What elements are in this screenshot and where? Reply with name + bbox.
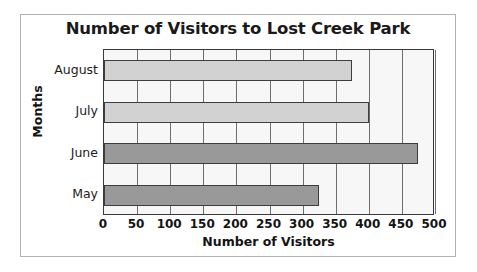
x-tick-150: 150 [190, 217, 215, 231]
plot-area [103, 49, 434, 215]
bar-july [104, 102, 369, 123]
y-tick-july: July [76, 103, 98, 118]
bar-august [104, 60, 352, 81]
y-tick-june: June [71, 145, 98, 160]
gridline [435, 50, 436, 214]
x-axis-tick-labels: 050100150200250300350400450500 [103, 217, 434, 233]
bar-may [104, 185, 319, 206]
chart-title: Number of Visitors to Lost Creek Park [20, 19, 456, 38]
chart-figure: Number of Visitors to Lost Creek Park Mo… [0, 0, 477, 272]
y-axis-tick-labels: AugustJulyJuneMay [38, 49, 98, 215]
bar-june [104, 143, 418, 164]
x-tick-300: 300 [289, 217, 314, 231]
x-tick-50: 50 [128, 217, 145, 231]
y-tick-august: August [54, 62, 98, 77]
x-tick-450: 450 [388, 217, 413, 231]
bars-layer [104, 50, 433, 214]
x-axis-label: Number of Visitors [103, 234, 434, 249]
x-tick-400: 400 [355, 217, 380, 231]
x-tick-250: 250 [256, 217, 281, 231]
y-tick-may: May [72, 186, 98, 201]
x-tick-350: 350 [322, 217, 347, 231]
x-tick-0: 0 [99, 217, 107, 231]
x-tick-100: 100 [157, 217, 182, 231]
x-tick-500: 500 [421, 217, 446, 231]
x-tick-200: 200 [223, 217, 248, 231]
